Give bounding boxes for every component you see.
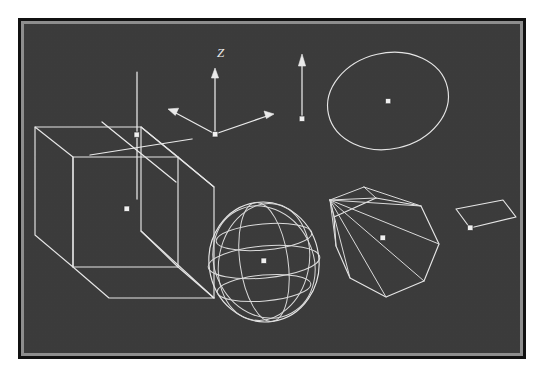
vector-arrow[interactable] [298, 54, 305, 122]
corner-marker [467, 225, 473, 231]
screenshot-root: Z [0, 0, 546, 378]
center-marker [385, 98, 390, 103]
center-marker [380, 235, 386, 241]
center-marker [124, 206, 130, 212]
viewport-bevel: Z [21, 21, 523, 356]
wireframe-sphere[interactable] [194, 188, 335, 336]
cone-base [334, 198, 439, 297]
z-axis-label: Z [217, 45, 225, 60]
wireframe-cone[interactable] [330, 187, 439, 297]
viewport-frame: Z [18, 18, 526, 359]
circle-ellipse[interactable] [318, 41, 458, 162]
origin-marker [212, 131, 218, 137]
y-arrowhead [264, 111, 274, 119]
center-marker [261, 258, 267, 264]
z-arrowhead [211, 68, 218, 78]
plane-outline [456, 200, 516, 228]
center-marker [134, 132, 139, 137]
cone-fan-lines [330, 187, 439, 297]
coordinate-gizmo[interactable]: Z [168, 45, 274, 137]
wireframe-cube[interactable] [35, 127, 214, 298]
clipped-header-text [0, 0, 546, 5]
vector-arrowhead [298, 54, 305, 66]
wireframe-plane[interactable] [456, 200, 516, 231]
vector-base-marker [299, 116, 305, 122]
viewport-canvas[interactable]: Z [24, 24, 520, 353]
wireframe-scene[interactable]: Z [24, 24, 520, 353]
